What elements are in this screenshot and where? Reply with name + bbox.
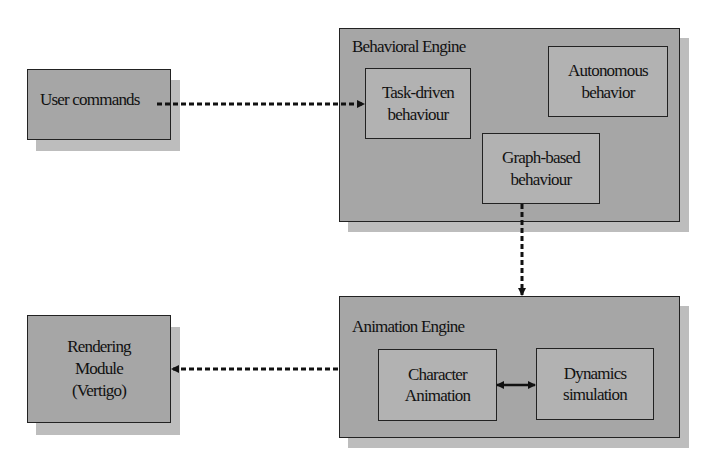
character-animation-line2: Animation — [405, 385, 471, 406]
autonomous-line1: Autonomous — [568, 60, 648, 81]
graph-based-line1: Graph-based — [502, 147, 580, 168]
dynamics-simulation-line2: simulation — [563, 384, 627, 405]
user-commands-label: User commands — [40, 89, 140, 111]
character-animation-node: Character Animation — [378, 349, 497, 421]
user-commands-node: User commands — [27, 69, 171, 140]
dynamics-simulation-line1: Dynamics — [563, 363, 627, 384]
graph-based-line2: behaviour — [502, 169, 580, 190]
rendering-module-line2: Module — [67, 358, 131, 380]
task-driven-line2: behaviour — [382, 104, 454, 125]
rendering-module-line3: (Vertigo) — [67, 380, 131, 402]
behavioral-engine-title: Behavioral Engine — [352, 37, 465, 57]
task-driven-line1: Task-driven — [382, 82, 454, 103]
rendering-module-line1: Rendering — [67, 336, 131, 358]
task-driven-behaviour-node: Task-driven behaviour — [365, 68, 471, 139]
autonomous-line2: behavior — [568, 82, 648, 103]
character-animation-line1: Character — [405, 364, 471, 385]
dynamics-simulation-node: Dynamics simulation — [536, 348, 654, 420]
animation-engine-title: Animation Engine — [352, 317, 464, 337]
rendering-module-node: Rendering Module (Vertigo) — [27, 315, 171, 423]
autonomous-behavior-node: Autonomous behavior — [548, 46, 668, 117]
graph-based-behaviour-node: Graph-based behaviour — [482, 133, 600, 204]
